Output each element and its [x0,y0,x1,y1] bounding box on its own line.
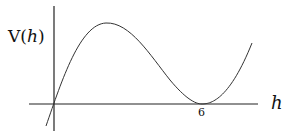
x-tick-6: 6 [198,106,205,119]
x-axis-label: h [271,92,283,113]
y-axis-label: V(h) [8,26,45,46]
chart: V(h) h 6 [0,0,291,131]
curve-v-of-h [46,23,252,126]
plot-area [0,0,291,131]
